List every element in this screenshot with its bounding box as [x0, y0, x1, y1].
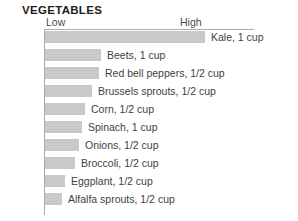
chart-title: VEGETABLES	[22, 4, 102, 16]
bar-label: Red bell peppers, 1/2 cup	[99, 67, 225, 79]
bar-track: Kale, 1 cup	[45, 31, 264, 43]
bar-track: Spinach, 1 cup	[45, 121, 157, 133]
bar-fill	[45, 85, 92, 97]
bars-area: Kale, 1 cupBeets, 1 cupRed bell peppers,…	[45, 31, 298, 221]
bar-track: Beets, 1 cup	[45, 49, 165, 61]
bar-fill	[45, 103, 85, 115]
bar-row: Beets, 1 cup	[45, 49, 298, 67]
bar-label: Corn, 1/2 cup	[85, 103, 154, 115]
bar-label: Broccoli, 1/2 cup	[75, 157, 159, 169]
bar-row: Brussels sprouts, 1/2 cup	[45, 85, 298, 103]
bar-label: Eggplant, 1/2 cup	[65, 175, 153, 187]
bar-fill	[45, 67, 99, 79]
bar-track: Alfalfa sprouts, 1/2 cup	[45, 193, 175, 205]
bar-row: Onions, 1/2 cup	[45, 139, 298, 157]
axis-top-rule	[44, 29, 254, 30]
bar-fill	[45, 49, 101, 61]
bar-track: Brussels sprouts, 1/2 cup	[45, 85, 216, 97]
bar-row: Broccoli, 1/2 cup	[45, 157, 298, 175]
bar-label: Kale, 1 cup	[205, 31, 264, 43]
bar-fill	[45, 175, 65, 187]
bar-row: Kale, 1 cup	[45, 31, 298, 49]
bar-fill	[45, 31, 205, 43]
axis-label-high: High	[180, 16, 202, 28]
bar-row: Corn, 1/2 cup	[45, 103, 298, 121]
bar-fill	[45, 193, 62, 205]
bar-row: Spinach, 1 cup	[45, 121, 298, 139]
bar-row: Eggplant, 1/2 cup	[45, 175, 298, 193]
bar-track: Broccoli, 1/2 cup	[45, 157, 159, 169]
bar-track: Eggplant, 1/2 cup	[45, 175, 153, 187]
bar-label: Alfalfa sprouts, 1/2 cup	[62, 193, 175, 205]
bar-label: Spinach, 1 cup	[82, 121, 157, 133]
vegetables-bar-chart: VEGETABLES Low High Kale, 1 cupBeets, 1 …	[0, 0, 298, 221]
bar-label: Beets, 1 cup	[101, 49, 165, 61]
bar-label: Brussels sprouts, 1/2 cup	[92, 85, 216, 97]
bar-track: Corn, 1/2 cup	[45, 103, 154, 115]
bar-fill	[45, 157, 75, 169]
bar-track: Onions, 1/2 cup	[45, 139, 159, 151]
bar-fill	[45, 139, 79, 151]
bar-fill	[45, 121, 82, 133]
bar-label: Onions, 1/2 cup	[79, 139, 159, 151]
bar-row: Alfalfa sprouts, 1/2 cup	[45, 193, 298, 211]
bar-track: Red bell peppers, 1/2 cup	[45, 67, 225, 79]
axis-label-low: Low	[46, 16, 65, 28]
bar-row: Red bell peppers, 1/2 cup	[45, 67, 298, 85]
